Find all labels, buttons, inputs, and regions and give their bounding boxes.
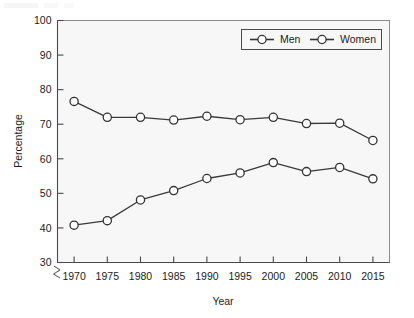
data-point-marker [302,119,310,127]
data-point-marker [203,174,211,182]
legend-marker-men [258,35,266,43]
y-tick-label: 80 [40,83,52,95]
x-tick-label: 1985 [162,270,186,282]
y-tick-label: 50 [40,187,52,199]
x-tick-label: 1970 [62,270,86,282]
data-point-marker [136,113,144,121]
legend-label-men: Men [280,33,301,45]
y-tick-label: 100 [34,14,52,26]
x-tick-label: 2000 [262,270,286,282]
chart-legend[interactable]: Men Women [242,30,382,50]
x-tick-label: 1990 [195,270,219,282]
data-point-marker [170,116,178,124]
legend-label-women: Women [340,33,376,45]
y-tick-label: 60 [40,153,52,165]
data-point-marker [70,221,78,229]
data-point-marker [336,119,344,127]
x-tick-label: 1995 [228,270,252,282]
data-point-marker [103,217,111,225]
data-point-marker [203,112,211,120]
data-point-marker [103,113,111,121]
legend-marker-women [318,35,326,43]
data-point-marker [302,167,310,175]
x-tick-label: 1975 [96,270,120,282]
data-point-marker [369,175,377,183]
chart-container: 30405060708090100 1970197519801985199019… [0,0,414,318]
data-point-marker [236,169,244,177]
data-point-marker [269,113,277,121]
axis-break-icon [54,266,61,278]
x-tick-label: 2010 [328,270,352,282]
plot-area [58,21,390,263]
data-point-marker [136,196,144,204]
y-tick-label: 90 [40,49,52,61]
line-chart: 30405060708090100 1970197519801985199019… [0,0,414,318]
y-tick-label: 40 [40,222,52,234]
x-tick-label: 2005 [295,270,319,282]
scan-artifact [4,3,74,8]
y-axis-title: Percentage [12,114,24,168]
x-tick-label: 1980 [129,270,153,282]
x-axis-title: Year [212,295,234,307]
data-point-marker [236,116,244,124]
data-point-marker [369,136,377,144]
data-point-marker [269,158,277,166]
data-point-marker [70,97,78,105]
y-tick-label: 70 [40,118,52,130]
data-point-marker [336,163,344,171]
y-tick-label: 30 [40,256,52,268]
data-point-marker [170,186,178,194]
x-tick-label: 2015 [361,270,385,282]
